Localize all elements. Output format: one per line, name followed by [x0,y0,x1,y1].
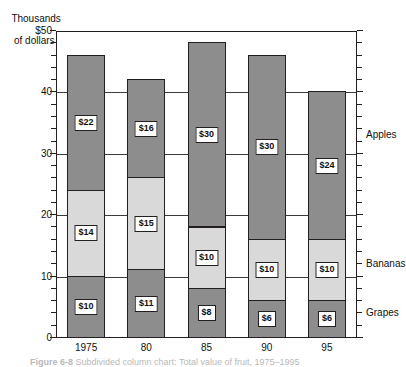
axis-tick-right-8 [357,288,362,289]
x-axis-tick-labels: 197580859095 [56,342,357,356]
bar-value-label-bananas-80: $15 [135,216,158,232]
axis-tick-right-42 [357,79,362,80]
bar-value-label-apples-80: $16 [135,121,158,137]
figure-caption: Figure 6-8 Subdivided column chart: Tota… [30,357,406,367]
bar-segment-grapes-85[interactable]: $8 [188,288,226,338]
axis-tick-right-6 [357,300,362,301]
bar-segment-apples-95[interactable]: $24 [308,91,346,239]
axis-tick-right-44 [357,67,362,68]
bar-value-label-bananas-90: $10 [255,262,278,278]
bar-value-label-apples-85: $30 [195,127,218,143]
axis-tick-right-38 [357,104,362,105]
axis-tick-right-26 [357,177,362,178]
bar-segment-bananas-80[interactable]: $15 [127,177,165,270]
axis-tick-right-16 [357,239,362,240]
series-label-bananas: Bananas [366,259,405,269]
bar-value-label-apples-1975: $22 [75,115,98,131]
bar-segment-grapes-80[interactable]: $11 [127,269,165,338]
bar-segment-bananas-1975[interactable]: $14 [67,190,105,277]
y-tick-label-0: 0 [0,333,52,343]
bar-segment-grapes-90[interactable]: $6 [248,300,286,338]
x-tick-label-85: 85 [201,342,212,353]
bar-segment-apples-90[interactable]: $30 [248,55,286,240]
axis-tick-right-34 [357,128,362,129]
bar-group-90[interactable]: $6$10$30 [248,56,286,338]
bar-value-label-apples-90: $30 [255,139,278,155]
bar-value-label-bananas-95: $10 [315,262,338,278]
bar-value-label-grapes-80: $11 [135,296,158,312]
bar-group-80[interactable]: $11$15$16 [127,80,165,338]
bar-group-1975[interactable]: $10$14$22 [67,56,105,338]
bar-value-label-bananas-85: $10 [195,250,218,266]
y-axis-right-ticks [357,31,364,338]
x-tick-label-80: 80 [141,342,152,353]
y-axis-tick-labels: $50403020100 [0,31,52,338]
axis-tick-right-28 [357,165,362,166]
y-axis-title-line1: Thousands [11,13,60,24]
axis-tick-right-2 [357,325,362,326]
bar-segment-bananas-90[interactable]: $10 [248,239,286,301]
axis-tick-right-32 [357,141,362,142]
series-label-apples: Apples [366,130,397,140]
bar-segment-grapes-1975[interactable]: $10 [67,276,105,338]
bar-value-label-grapes-95: $6 [318,311,336,327]
x-tick-label-90: 90 [261,342,272,353]
y-tick-label-40: 40 [0,87,52,97]
x-tick-label-95: 95 [321,342,332,353]
axis-tick-right-50 [357,30,363,31]
y-tick-label-30: 30 [0,149,52,159]
bar-value-label-grapes-85: $8 [197,305,215,321]
axis-tick-right-20 [357,214,363,215]
axis-tick-right-0 [357,337,363,338]
axis-tick-right-30 [357,153,363,154]
bar-value-label-bananas-1975: $14 [75,225,98,241]
axis-tick-right-12 [357,263,362,264]
figure-number: Figure 6-8 [30,357,73,367]
axis-tick-right-46 [357,55,362,56]
y-tick-label-20: 20 [0,210,52,220]
bar-value-label-apples-95: $24 [315,158,338,174]
bar-segment-apples-80[interactable]: $16 [127,79,165,178]
axis-tick-right-36 [357,116,362,117]
figure-caption-text: Subdivided column chart: Total value of … [76,357,300,367]
axis-tick-right-4 [357,312,362,313]
bar-segment-apples-1975[interactable]: $22 [67,55,105,191]
y-tick-label-10: 10 [0,272,52,282]
axis-tick-right-48 [357,42,362,43]
axis-tick-right-40 [357,91,363,92]
axis-tick-right-22 [357,202,362,203]
y-tick-label-50: $50 [0,26,52,36]
bar-segment-grapes-95[interactable]: $6 [308,300,346,338]
bar-value-label-grapes-1975: $10 [75,299,98,315]
bar-series-container: $10$14$22$11$15$16$8$10$30$6$10$30$6$10$… [56,31,357,338]
axis-tick-right-24 [357,190,362,191]
series-label-grapes: Grapes [366,308,399,318]
bar-segment-bananas-95[interactable]: $10 [308,239,346,301]
x-tick-label-1975: 1975 [75,342,97,353]
bar-group-95[interactable]: $6$10$24 [308,92,346,338]
axis-tick-right-18 [357,226,362,227]
axis-tick-right-10 [357,276,363,277]
axis-tick-right-14 [357,251,362,252]
bar-segment-apples-85[interactable]: $30 [188,42,226,227]
series-legend-labels: ApplesBananasGrapes [366,31,406,338]
bar-value-label-grapes-90: $6 [258,311,276,327]
bar-group-85[interactable]: $8$10$30 [188,43,226,338]
bar-segment-bananas-85[interactable]: $10 [188,227,226,289]
